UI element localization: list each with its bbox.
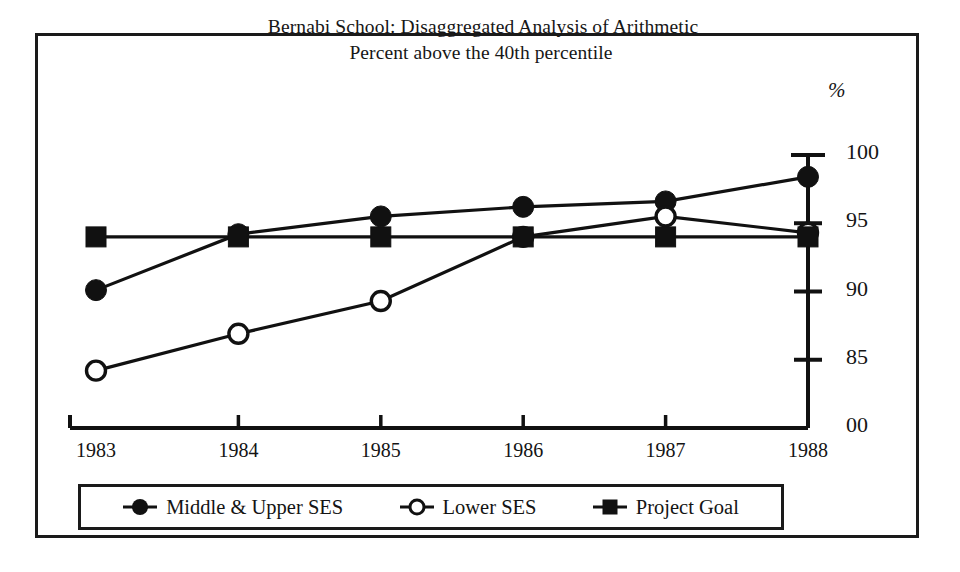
data-point xyxy=(798,227,818,247)
legend-label: Project Goal xyxy=(636,496,739,519)
data-point xyxy=(371,227,391,247)
data-point xyxy=(798,166,819,187)
data-point xyxy=(513,227,533,247)
data-point xyxy=(513,196,534,217)
y-axis-label-95: 95 xyxy=(846,207,868,233)
series-line-filled-circle xyxy=(96,177,808,290)
legend-label: Middle & Upper SES xyxy=(166,496,343,519)
filled-circle-icon xyxy=(123,497,157,517)
x-axis-label-1987: 1987 xyxy=(646,439,686,462)
axes-layer xyxy=(70,155,825,428)
legend-entry: Project Goal xyxy=(593,496,739,519)
data-point xyxy=(86,280,107,301)
x-axis-label-1985: 1985 xyxy=(361,439,401,462)
data-point xyxy=(370,206,391,227)
series-line-open-circle xyxy=(96,216,808,370)
data-point xyxy=(229,324,248,343)
x-axis-label-1986: 1986 xyxy=(503,439,543,462)
data-point xyxy=(228,227,248,247)
open-circle-icon xyxy=(400,497,434,517)
legend-entry: Lower SES xyxy=(400,496,537,519)
data-point xyxy=(371,292,390,311)
y-axis-label-85: 85 xyxy=(846,344,868,370)
legend-label: Lower SES xyxy=(443,496,537,519)
chart-legend: Middle & Upper SESLower SESProject Goal xyxy=(78,484,784,530)
data-point xyxy=(87,361,106,380)
y-axis-label-00: 00 xyxy=(846,412,868,438)
filled-square-icon xyxy=(593,497,627,517)
data-point xyxy=(656,207,675,226)
data-point xyxy=(656,227,676,247)
data-point xyxy=(86,227,106,247)
x-axis-label-1984: 1984 xyxy=(218,439,258,462)
x-axis-label-1988: 1988 xyxy=(788,439,828,462)
series-layer xyxy=(86,166,819,380)
x-axis-label-1983: 1983 xyxy=(76,439,116,462)
legend-entry: Middle & Upper SES xyxy=(123,496,343,519)
y-axis-label-90: 90 xyxy=(846,276,868,302)
y-axis-label-100: 100 xyxy=(846,139,879,165)
